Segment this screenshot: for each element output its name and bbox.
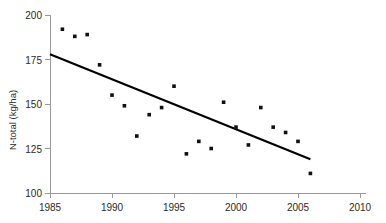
data-point — [85, 33, 89, 37]
x-tick-label-1985: 1985 — [39, 202, 62, 213]
data-point — [284, 131, 288, 135]
data-point — [259, 106, 263, 110]
chart-container: N-total (kg/ha) 200 175 150 125 100 1985… — [0, 0, 386, 223]
y-axis-title-text: N-total (kg/ha) — [7, 90, 18, 150]
y-axis-title: N-total (kg/ha) — [7, 90, 18, 150]
y-tick-label-150: 150 — [25, 99, 42, 110]
data-point — [309, 172, 313, 176]
trend-line — [50, 54, 310, 159]
trend-line-group — [50, 54, 310, 159]
y-tick-label-100: 100 — [25, 188, 42, 199]
data-point — [61, 27, 65, 31]
data-point — [110, 93, 114, 97]
data-point — [247, 143, 251, 147]
data-point — [73, 35, 77, 39]
data-point — [234, 125, 238, 129]
y-tick-label-125: 125 — [25, 144, 42, 155]
data-point — [123, 104, 127, 108]
data-point — [160, 106, 164, 110]
data-point — [197, 140, 201, 144]
data-point — [296, 140, 300, 144]
x-axis-ticks: 1985 1990 1995 2000 2005 2010 — [39, 193, 372, 213]
x-tick-label-1990: 1990 — [101, 202, 124, 213]
x-tick-label-2000: 2000 — [225, 202, 248, 213]
y-tick-label-175: 175 — [25, 55, 42, 66]
data-point — [271, 125, 275, 129]
y-axis-ticks: 200 175 150 125 100 — [25, 10, 50, 199]
data-point — [185, 152, 189, 156]
x-tick-label-1995: 1995 — [163, 202, 186, 213]
data-point — [209, 147, 213, 151]
data-points-group — [61, 27, 313, 175]
data-point — [222, 100, 226, 104]
scatter-plot: N-total (kg/ha) 200 175 150 125 100 1985… — [0, 0, 386, 223]
data-point — [98, 63, 102, 67]
y-tick-label-200: 200 — [25, 10, 42, 21]
data-point — [147, 113, 151, 117]
x-tick-label-2010: 2010 — [349, 202, 372, 213]
x-tick-label-2005: 2005 — [287, 202, 310, 213]
data-point — [172, 84, 176, 88]
data-point — [135, 134, 139, 138]
